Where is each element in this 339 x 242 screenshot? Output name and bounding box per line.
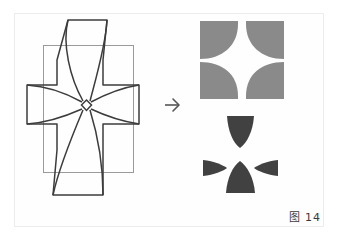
- figure-caption: 图 14: [289, 208, 322, 224]
- figure-frame: [14, 13, 324, 227]
- figure-root: 图 14: [0, 0, 339, 242]
